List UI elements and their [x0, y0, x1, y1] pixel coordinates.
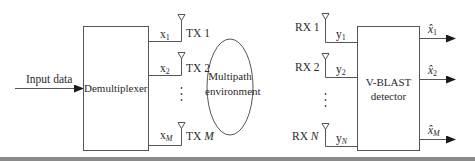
- output-2-label: x̂2: [428, 65, 437, 78]
- tx2-antenna-icon: [178, 53, 185, 59]
- multipath-environment-label: Multipath environment: [205, 69, 255, 99]
- bottom-rule: [0, 157, 475, 161]
- rx1-signal-label: y1: [336, 29, 346, 42]
- rx2-signal-label: y2: [336, 64, 346, 77]
- tx-ellipsis-dot: [181, 99, 183, 101]
- tx1-signal-label: x1: [160, 29, 170, 42]
- rxn-antenna-label: RX N: [292, 131, 319, 143]
- txm-antenna-icon: [178, 123, 185, 129]
- rx2-antenna-label: RX 2: [295, 62, 320, 74]
- input-data-label: Input data: [26, 74, 72, 86]
- rxn-antenna-icon: [322, 124, 329, 130]
- rx1-antenna-icon: [322, 14, 329, 20]
- demultiplexer-label: Demultiplexer: [84, 83, 148, 94]
- tx1-antenna-label: TX 1: [186, 28, 210, 40]
- rx-ellipsis-dot: [325, 99, 327, 101]
- rx-ellipsis-dot: [325, 105, 327, 107]
- txm-signal-label: xM: [160, 130, 172, 143]
- rx2-antenna-icon: [322, 54, 329, 60]
- vblast-detector-label: V-BLAST detector: [358, 75, 419, 103]
- rx-ellipsis-dot: [325, 93, 327, 95]
- tx-ellipsis-dot: [181, 87, 183, 89]
- rxn-signal-label: yN: [336, 133, 347, 146]
- tx-ellipsis-dot: [181, 93, 183, 95]
- output-m-label: x̂M: [428, 125, 440, 138]
- rx1-antenna-label: RX 1: [295, 22, 320, 34]
- tx1-antenna-icon: [178, 15, 185, 21]
- txm-antenna-label: TX M: [186, 131, 214, 143]
- tx2-signal-label: x2: [160, 63, 170, 76]
- output-1-label: x̂1: [428, 24, 437, 37]
